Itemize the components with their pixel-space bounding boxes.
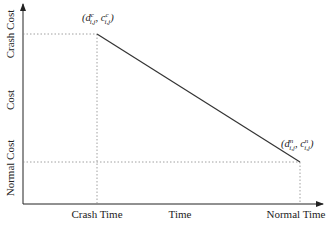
time-cost-diagram: Crash Cost Cost Normal Cost Crash Time T… [0, 0, 330, 225]
time-cost-line [97, 34, 300, 162]
y-axis-title: Cost [4, 90, 16, 110]
normal-point-label: (dni,j, cni,j) [281, 137, 314, 152]
x-axis-title: Time [169, 208, 192, 220]
x-tick-crash-time: Crash Time [71, 208, 122, 220]
y-tick-normal-cost: Normal Cost [4, 140, 16, 197]
crash-point-label: (dci,j, cci,j) [82, 11, 114, 26]
y-tick-crash-cost: Crash Cost [4, 10, 16, 59]
x-tick-normal-time: Normal Time [267, 208, 326, 220]
